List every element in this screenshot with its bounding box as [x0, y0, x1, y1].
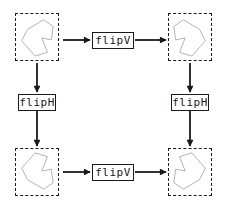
- op-box-fliph-right: flipH: [171, 94, 209, 111]
- op-box-flipv-top: flipV: [92, 32, 134, 49]
- op-label-flipv-bottom: flipV: [95, 167, 131, 178]
- flip-transform-diagram: flipV flipH flipH flipV: [0, 0, 225, 208]
- op-label-flipv-top: flipV: [95, 35, 131, 46]
- shape-box-flipped-h: [15, 148, 59, 196]
- shape-box-original: [15, 13, 59, 61]
- op-box-fliph-left: flipH: [18, 94, 56, 111]
- shape-icon-original: [16, 14, 58, 60]
- op-label-fliph-right: flipH: [172, 97, 208, 108]
- shape-icon-flipped-vh: [169, 149, 211, 195]
- shape-box-flipped-vh: [168, 148, 212, 196]
- shape-icon-flipped-v: [169, 14, 211, 60]
- op-label-fliph-left: flipH: [19, 97, 55, 108]
- shape-icon-flipped-h: [16, 149, 58, 195]
- op-box-flipv-bottom: flipV: [92, 164, 134, 181]
- shape-box-flipped-v: [168, 13, 212, 61]
